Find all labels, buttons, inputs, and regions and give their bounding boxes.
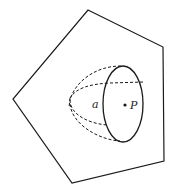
diagram-svg: a P bbox=[0, 0, 175, 192]
diagram-canvas: a P bbox=[0, 0, 175, 192]
pentagon-outline bbox=[13, 10, 164, 183]
point-P-dot bbox=[123, 103, 126, 106]
label-P: P bbox=[129, 99, 138, 112]
label-a: a bbox=[92, 98, 99, 111]
